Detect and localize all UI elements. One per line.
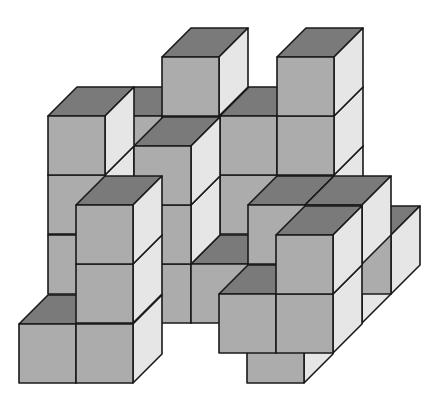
cube-front-face: [19, 324, 76, 383]
cube-stack-canvas: [0, 0, 443, 402]
cube-front-face: [276, 294, 333, 353]
cube-stack-diagram: Isometric cube stack: [0, 0, 443, 402]
cube-front-face: [219, 294, 276, 353]
cube-front-face: [276, 235, 333, 294]
cube-front-face: [162, 57, 219, 116]
cube-front-face: [48, 116, 105, 175]
cube-front-face: [76, 264, 133, 323]
cube-front-face: [76, 205, 133, 264]
cube-front-face: [277, 116, 334, 175]
cube-front-face: [76, 324, 133, 383]
cube-front-face: [277, 57, 334, 116]
cube-front-face: [220, 116, 277, 175]
